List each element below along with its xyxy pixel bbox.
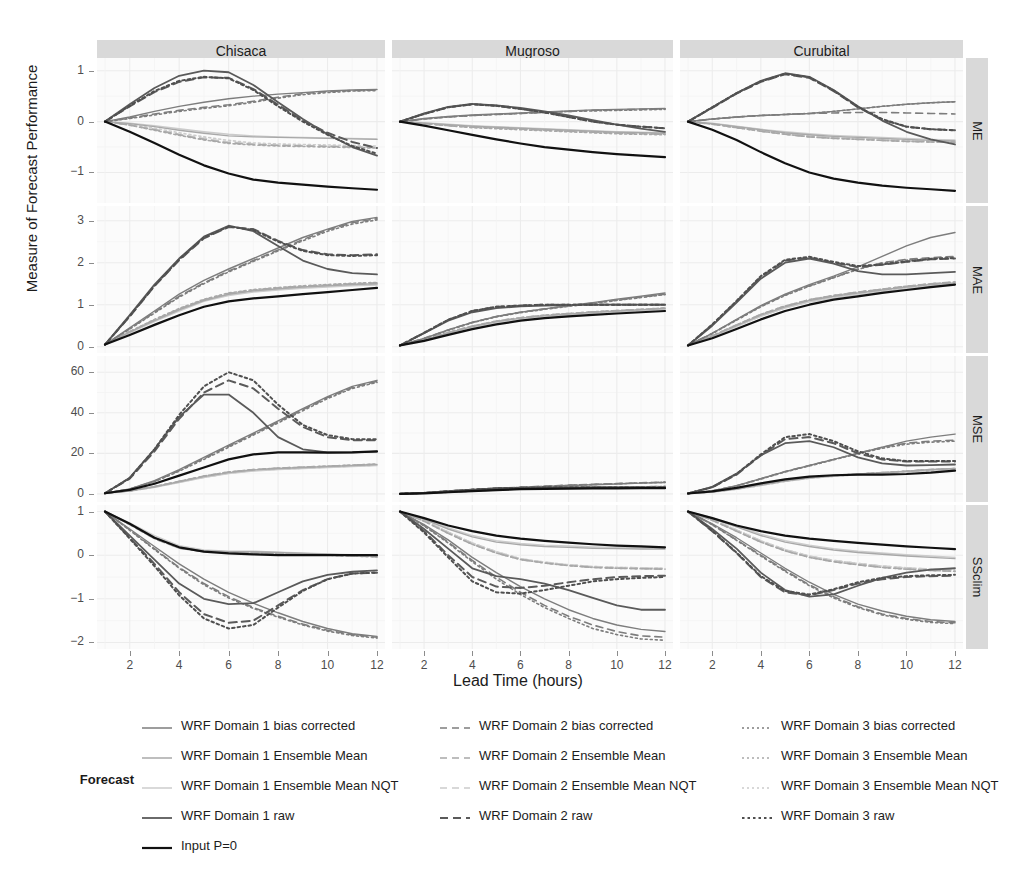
y-axis-title: Measure of Forecast Performance	[23, 19, 40, 339]
x-tick-mark	[424, 651, 425, 656]
series-line	[688, 283, 955, 346]
panel-chisaca-ssclim	[97, 505, 385, 649]
legend-item[interactable]: Input P=0	[140, 838, 237, 853]
legend-item[interactable]: WRF Domain 1 Ensemble Mean	[140, 748, 367, 763]
panel-curubital-mae	[680, 206, 963, 353]
legend-label: WRF Domain 2 Ensemble Mean NQT	[479, 778, 696, 793]
y-tick-mark	[89, 263, 94, 264]
y-tick-label: −1	[48, 164, 84, 178]
series-line	[105, 465, 377, 493]
row-strip-me: ME	[966, 58, 988, 203]
series-line	[688, 284, 955, 346]
panel-chisaca-mae	[97, 206, 385, 353]
legend-item[interactable]: WRF Domain 1 Ensemble Mean NQT	[140, 778, 398, 793]
series-line	[400, 512, 665, 638]
series-line	[688, 512, 955, 550]
x-tick-label: 6	[505, 658, 535, 672]
row-strip-ssclim: SSclim	[966, 505, 988, 649]
legend-key-swatch	[438, 720, 472, 732]
x-tick-label: 8	[843, 658, 873, 672]
series-line	[400, 309, 665, 346]
panel-plot-area	[97, 206, 385, 353]
legend-item[interactable]: WRF Domain 3 raw	[740, 808, 894, 823]
series-line	[105, 122, 377, 190]
panel-plot-area	[680, 58, 963, 203]
panel-plot-area	[392, 58, 673, 203]
series-line	[105, 395, 377, 494]
panel-chisaca-me	[97, 58, 385, 203]
x-tick-mark	[617, 651, 618, 656]
legend-label: WRF Domain 2 raw	[479, 808, 592, 823]
x-tick-mark	[179, 651, 180, 656]
x-tick-mark	[665, 651, 666, 656]
series-line	[688, 441, 955, 493]
x-tick-label: 8	[554, 658, 584, 672]
x-tick-mark	[569, 651, 570, 656]
series-line	[688, 285, 955, 346]
legend-item[interactable]: WRF Domain 3 Ensemble Mean	[740, 748, 967, 763]
legend-key-swatch	[140, 810, 174, 822]
y-tick-label: 2	[48, 255, 84, 269]
legend-item[interactable]: WRF Domain 2 Ensemble Mean	[438, 748, 665, 763]
series-line	[688, 285, 955, 346]
x-tick-label: 10	[891, 658, 921, 672]
legend-item[interactable]: WRF Domain 2 Ensemble Mean NQT	[438, 778, 696, 793]
series-line	[400, 309, 665, 346]
legend-item[interactable]: WRF Domain 3 Ensemble Mean NQT	[740, 778, 998, 793]
x-tick-label: 8	[263, 658, 293, 672]
legend-key-swatch	[140, 780, 174, 792]
x-tick-label: 2	[409, 658, 439, 672]
y-tick-mark	[89, 305, 94, 306]
x-tick-mark	[377, 651, 378, 656]
legend-key-swatch	[740, 750, 774, 762]
row-strip-label: MSE	[970, 415, 985, 443]
legend-label: WRF Domain 2 Ensemble Mean	[479, 748, 665, 763]
legend-item[interactable]: WRF Domain 1 raw	[140, 808, 294, 823]
y-tick-mark	[89, 347, 94, 348]
legend-item[interactable]: WRF Domain 2 bias corrected	[438, 718, 653, 733]
y-tick-mark	[89, 642, 94, 643]
legend-item[interactable]: WRF Domain 3 bias corrected	[740, 718, 955, 733]
panel-curubital-ssclim	[680, 505, 963, 649]
row-strip-label: MAE	[970, 265, 985, 293]
row-strip-label: SSclim	[970, 557, 985, 597]
legend-label: WRF Domain 3 Ensemble Mean	[781, 748, 967, 763]
y-tick-mark	[89, 221, 94, 222]
legend-key-swatch	[140, 840, 174, 852]
panel-mugroso-mse	[392, 356, 673, 502]
x-tick-label: 2	[697, 658, 727, 672]
facet-chart: Measure of Forecast Performance Lead Tim…	[0, 0, 1036, 892]
y-tick-label: −1	[48, 591, 84, 605]
x-axis-title: Lead Time (hours)	[0, 672, 1036, 690]
panel-plot-area	[392, 356, 673, 502]
x-tick-label: 12	[650, 658, 680, 672]
legend: Forecast WRF Domain 1 bias correctedWRF …	[0, 700, 1036, 880]
y-tick-mark	[89, 122, 94, 123]
panel-chisaca-mse	[97, 356, 385, 502]
panel-curubital-mse	[680, 356, 963, 502]
x-tick-mark	[278, 651, 279, 656]
y-tick-label: 60	[48, 364, 84, 378]
y-tick-label: 1	[48, 63, 84, 77]
y-tick-mark	[89, 413, 94, 414]
y-tick-mark	[89, 555, 94, 556]
legend-key-swatch	[740, 810, 774, 822]
panel-plot-area	[680, 505, 963, 649]
x-tick-mark	[229, 651, 230, 656]
panel-mugroso-me	[392, 58, 673, 203]
x-tick-label: 2	[115, 658, 145, 672]
y-tick-label: 40	[48, 405, 84, 419]
y-tick-label: 0	[48, 486, 84, 500]
panel-plot-area	[97, 58, 385, 203]
legend-item[interactable]: WRF Domain 1 bias corrected	[140, 718, 355, 733]
legend-label: WRF Domain 1 Ensemble Mean	[181, 748, 367, 763]
series-line	[400, 309, 665, 345]
legend-item[interactable]: WRF Domain 2 raw	[438, 808, 592, 823]
legend-key-swatch	[140, 720, 174, 732]
y-tick-label: 3	[48, 213, 84, 227]
y-tick-mark	[89, 71, 94, 72]
y-tick-label: 1	[48, 297, 84, 311]
y-tick-label: 1	[48, 504, 84, 518]
series-line	[688, 282, 955, 345]
x-tick-label: 12	[362, 658, 392, 672]
